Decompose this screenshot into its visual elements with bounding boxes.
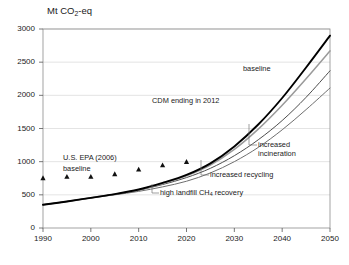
x-tick-label: 2050 — [313, 234, 347, 243]
x-tick-label: 1990 — [26, 234, 60, 243]
annotation-increased-incineration-line1: increased — [258, 140, 296, 149]
annotation-increased-incineration-line2: incineration — [258, 149, 296, 158]
annotation-increased-incineration: increased incineration — [258, 140, 296, 158]
y-tick-label: 2000 — [5, 90, 35, 99]
annotation-high-landfill-ch4-recovery: high landfill CH4 recovery — [160, 188, 243, 199]
annotation-high-landfill-prefix: high landfill CH — [160, 188, 210, 197]
y-axis-tick-marks — [39, 29, 43, 228]
annotation-epa-line2: baseline — [63, 164, 117, 173]
annotation-increased-recycling: increased recycling — [210, 170, 273, 179]
y-tick-label: 1000 — [5, 157, 35, 166]
y-tick-label: 2500 — [5, 57, 35, 66]
x-tick-label: 2000 — [74, 234, 108, 243]
x-tick-label: 2040 — [265, 234, 299, 243]
x-tick-label: 2030 — [217, 234, 251, 243]
annotation-cdm-ending-2012: CDM ending in 2012 — [152, 96, 219, 105]
series-lines — [43, 36, 330, 205]
y-tick-label: 1500 — [5, 124, 35, 133]
y-tick-label: 500 — [5, 190, 35, 199]
annotation-baseline: baseline — [243, 64, 271, 73]
emissions-projection-chart: Mt CO2-eq 050010001500200025003000 19902… — [0, 0, 349, 265]
y-tick-label: 3000 — [5, 24, 35, 33]
annotation-epa-baseline: U.S. EPA (2006) baseline — [63, 153, 117, 173]
x-axis-tick-marks — [43, 228, 330, 232]
x-tick-label: 2020 — [170, 234, 204, 243]
y-tick-label: 0 — [5, 223, 35, 232]
plot-area — [0, 0, 349, 265]
annotation-epa-line1: U.S. EPA (2006) — [63, 153, 117, 162]
x-tick-label: 2010 — [122, 234, 156, 243]
annotation-high-landfill-suffix: recovery — [213, 188, 243, 197]
